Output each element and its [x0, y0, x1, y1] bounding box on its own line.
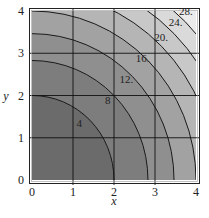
contour-level-label: 12. — [119, 73, 133, 85]
y-tick-label: 0 — [18, 173, 24, 187]
contour-level-label: 8 — [105, 94, 111, 106]
y-tick-label: 1 — [18, 131, 24, 145]
x-axis-label: x — [110, 194, 117, 208]
y-axis-ticks: 01234 — [18, 4, 24, 187]
y-tick-label: 4 — [18, 4, 24, 18]
contour-plot: 4812.16.20.24.28. 01234 01234 x y — [0, 0, 209, 218]
x-tick-label: 0 — [29, 185, 35, 199]
y-tick-label: 3 — [18, 46, 24, 60]
contour-level-label: 28. — [179, 5, 193, 17]
contour-level-label: 4 — [76, 117, 82, 129]
contour-level-label: 16. — [136, 52, 150, 64]
y-axis-label: y — [2, 89, 9, 103]
x-tick-label: 4 — [193, 185, 199, 199]
x-tick-label: 1 — [70, 185, 76, 199]
contour-level-label: 20. — [154, 31, 168, 43]
y-tick-label: 2 — [18, 89, 24, 103]
contour-level-label: 24. — [169, 16, 183, 28]
x-tick-label: 3 — [152, 185, 158, 199]
